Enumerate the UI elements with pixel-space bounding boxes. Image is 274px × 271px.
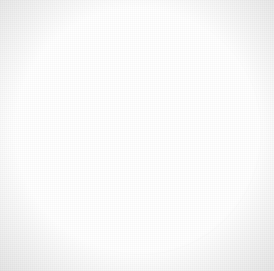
lower-sphere-left (148, 174, 190, 219)
grain-texture (99, 33, 146, 82)
upper-diplo-body (99, 33, 155, 103)
lower-diplo-body (148, 170, 212, 222)
illustration-canvas (0, 0, 274, 271)
grain-texture (148, 174, 190, 219)
upper-sphere-top (99, 33, 146, 82)
